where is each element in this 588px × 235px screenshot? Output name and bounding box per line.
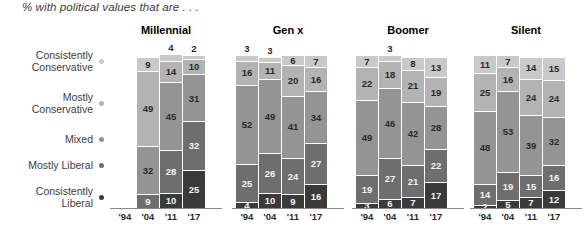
stacked-bar[interactable]: 82142217 bbox=[402, 58, 424, 208]
bar-segment[interactable]: 19 bbox=[356, 175, 378, 204]
stacked-bar[interactable]: 1319282217 bbox=[425, 58, 447, 208]
bar-segment[interactable]: 32 bbox=[183, 121, 205, 170]
bar-segment[interactable]: 53 bbox=[497, 91, 519, 172]
bar-value-label: 6 bbox=[290, 56, 295, 66]
bar-segment[interactable]: 9 bbox=[137, 194, 159, 208]
bar-segment[interactable]: 27 bbox=[379, 158, 401, 199]
bar-segment[interactable]: 5 bbox=[497, 200, 519, 208]
bar-segment[interactable]: 45 bbox=[160, 82, 182, 150]
bar-segment[interactable]: 9 bbox=[282, 194, 304, 208]
bar-segment[interactable]: 16 bbox=[305, 67, 327, 91]
bar-segment[interactable]: 16 bbox=[497, 67, 519, 91]
bar-segment[interactable]: 25 bbox=[474, 73, 496, 111]
bar-segment[interactable]: 22 bbox=[425, 149, 447, 182]
bar-segment[interactable]: 7 bbox=[356, 56, 378, 67]
bar-segment[interactable]: 25 bbox=[236, 164, 258, 202]
bar-segment[interactable]: 19 bbox=[497, 172, 519, 201]
stacked-bar[interactable]: 414452810 bbox=[160, 55, 182, 208]
bar-segment[interactable]: 18 bbox=[379, 61, 401, 88]
legend-item-mixed[interactable]: Mixed bbox=[0, 134, 104, 146]
bar-segment[interactable]: 17 bbox=[425, 182, 447, 208]
bar-segment[interactable]: 49 bbox=[259, 79, 281, 153]
plot-area: 7224919331846276821422171319282217 bbox=[350, 40, 466, 209]
legend-item-mostly-conservative[interactable]: Mostly Conservative bbox=[0, 92, 104, 115]
bar-value-label: 11 bbox=[480, 60, 490, 70]
stacked-bar[interactable]: 716342716 bbox=[305, 56, 327, 208]
bar-segment[interactable]: 32 bbox=[543, 117, 565, 166]
bar-segment[interactable]: 49 bbox=[137, 71, 159, 145]
legend-item-mostly-liberal[interactable]: Mostly Liberal bbox=[0, 160, 104, 172]
bar-segment[interactable]: 15 bbox=[543, 58, 565, 81]
stacked-bar[interactable]: 142439157 bbox=[520, 58, 542, 208]
axis-baseline bbox=[470, 208, 582, 209]
bar-segment[interactable]: 14 bbox=[160, 61, 182, 82]
bar-segment[interactable]: 22 bbox=[356, 67, 378, 100]
bar-segment[interactable]: 32 bbox=[137, 146, 159, 195]
bar-segment[interactable]: 11 bbox=[259, 62, 281, 79]
bar-segment[interactable]: 41 bbox=[282, 96, 304, 158]
bar-segment[interactable]: 7 bbox=[305, 56, 327, 67]
stacked-bar[interactable]: 31846276 bbox=[379, 56, 401, 208]
stacked-bar[interactable]: 1524321612 bbox=[543, 58, 565, 208]
bar-segment[interactable]: 24 bbox=[543, 80, 565, 116]
bar-segment[interactable]: 6 bbox=[282, 56, 304, 65]
bar-segment[interactable]: 48 bbox=[474, 111, 496, 184]
stacked-bar[interactable]: 210313225 bbox=[183, 56, 205, 208]
bar-segment[interactable]: 10 bbox=[183, 59, 205, 74]
legend-item-consistently-conservative[interactable]: Consistently Conservative bbox=[0, 50, 104, 73]
stacked-bar[interactable]: 112548142 bbox=[474, 56, 496, 208]
bar-segment[interactable]: 14 bbox=[520, 58, 542, 79]
stacked-bar[interactable]: 72249193 bbox=[356, 56, 378, 208]
legend-swatch-consistently-liberal bbox=[99, 195, 104, 200]
bar-segment[interactable]: 16 bbox=[305, 184, 327, 208]
bar-segment[interactable]: 16 bbox=[543, 165, 565, 189]
stacked-bar[interactable]: 311492610 bbox=[259, 58, 281, 208]
bar-segment[interactable]: 13 bbox=[425, 58, 447, 78]
bar-segment[interactable]: 49 bbox=[356, 100, 378, 174]
bar-segment[interactable]: 21 bbox=[402, 165, 424, 197]
stacked-bar[interactable]: 31652254 bbox=[236, 56, 258, 208]
stacked-bar[interactable]: 71653195 bbox=[497, 56, 519, 208]
bar-segment[interactable]: 25 bbox=[183, 170, 205, 208]
bar-segment[interactable]: 7 bbox=[520, 197, 542, 208]
bar-segment[interactable]: 46 bbox=[379, 88, 401, 158]
bar-segment[interactable]: 16 bbox=[236, 61, 258, 85]
bar-segment[interactable]: 24 bbox=[520, 79, 542, 115]
bar-segment[interactable]: 12 bbox=[543, 190, 565, 208]
bar-segment[interactable]: 31 bbox=[183, 74, 205, 121]
legend-item-consistently-liberal[interactable]: Consistently Liberal bbox=[0, 186, 104, 209]
bar-segment[interactable]: 24 bbox=[282, 158, 304, 194]
stacked-bar[interactable]: 62041249 bbox=[282, 56, 304, 208]
stacked-bar[interactable]: 949329 bbox=[137, 58, 159, 208]
bar-segment[interactable]: 15 bbox=[520, 175, 542, 198]
bar-segment[interactable]: 6 bbox=[379, 199, 401, 208]
bar-segment[interactable]: 11 bbox=[474, 56, 496, 73]
bar-segment[interactable]: 39 bbox=[520, 115, 542, 174]
bar-segment[interactable]: 10 bbox=[160, 193, 182, 208]
bar-segment[interactable]: 21 bbox=[402, 70, 424, 102]
x-axis-ticks: '94'04'11'17 bbox=[230, 211, 346, 225]
x-tick-label: '94 bbox=[474, 211, 496, 222]
bar-segment[interactable]: 8 bbox=[402, 58, 424, 70]
bar-segment[interactable]: 7 bbox=[402, 197, 424, 208]
x-tick-label: '11 bbox=[282, 211, 304, 222]
bar-value-label: 7 bbox=[528, 198, 533, 208]
x-tick-label: '04 bbox=[379, 211, 401, 222]
bar-segment[interactable]: 19 bbox=[425, 77, 447, 106]
bar-segment[interactable]: 20 bbox=[282, 65, 304, 95]
bar-value-label: 16 bbox=[311, 75, 322, 85]
bar-segment[interactable]: 34 bbox=[305, 91, 327, 143]
bar-value-label: 7 bbox=[410, 198, 415, 208]
bar-segment[interactable]: 7 bbox=[497, 56, 519, 67]
x-tick-label: '17 bbox=[305, 211, 327, 222]
bar-segment[interactable]: 28 bbox=[425, 106, 447, 149]
bar-segment[interactable]: 26 bbox=[259, 153, 281, 193]
x-tick-label: '11 bbox=[520, 211, 542, 222]
bar-segment[interactable]: 28 bbox=[160, 150, 182, 193]
bar-segment[interactable]: 10 bbox=[259, 193, 281, 208]
bar-value-label: 3 bbox=[236, 44, 258, 54]
bar-segment[interactable]: 27 bbox=[305, 143, 327, 184]
bar-segment[interactable]: 42 bbox=[402, 102, 424, 166]
bar-segment[interactable]: 52 bbox=[236, 85, 258, 164]
bar-segment[interactable]: 9 bbox=[137, 58, 159, 72]
